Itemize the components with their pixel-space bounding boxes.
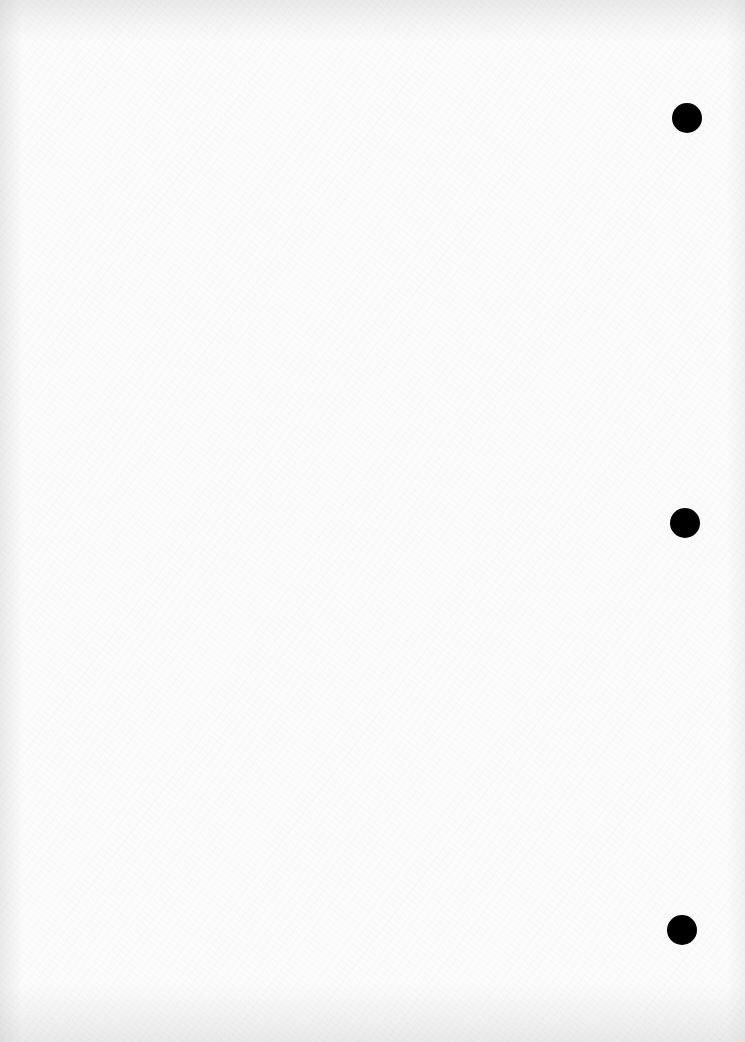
binder-hole-icon: [667, 915, 697, 945]
binder-hole-icon: [670, 508, 700, 538]
blank-paper-page: [0, 0, 745, 1042]
binder-hole-icon: [672, 103, 702, 133]
